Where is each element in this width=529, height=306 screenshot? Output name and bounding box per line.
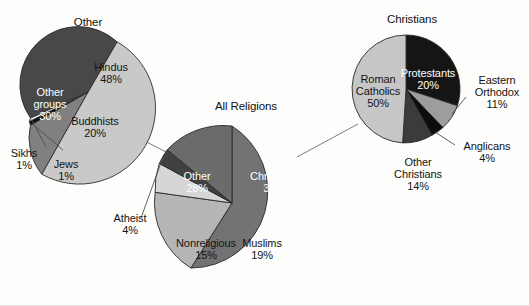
label-other-christians-value: 14%: [407, 180, 429, 193]
label-other-name: Other: [183, 170, 210, 183]
label-roman-catholics-value: 50%: [367, 97, 389, 110]
label-sikhs-value: 1%: [16, 159, 32, 172]
label-jews-name: Jews: [54, 158, 79, 171]
label-other-groups-value: 30%: [39, 110, 61, 123]
label-other-value: 28%: [186, 182, 208, 195]
label-anglicans-value: 4%: [479, 152, 495, 165]
label-roman-catholics-line2: Catholics: [356, 85, 400, 98]
label-nonreligious-name: Nonreligious: [176, 237, 236, 250]
label-christians-value: 34%: [263, 182, 285, 195]
label-muslims-value: 19%: [251, 249, 273, 262]
label-hindus-name: Hindus: [94, 61, 128, 74]
label-nonreligious-value: 15%: [195, 249, 217, 262]
label-roman-catholics-line1: Roman: [361, 73, 396, 86]
label-other-christians-line1: Other: [404, 156, 431, 169]
pie-title-christians: Christians: [387, 13, 437, 26]
label-protestants-name: Protestants: [401, 67, 456, 80]
label-other-groups-line2: groups: [33, 98, 66, 111]
label-hindus-value: 48%: [100, 73, 122, 86]
label-atheist-name: Atheist: [114, 212, 147, 225]
label-anglicans-name: Anglicans: [464, 140, 511, 153]
label-buddhists-name: Buddhists: [71, 115, 118, 128]
pie-chart-figure: Other All Religions Christians Hindus 48…: [0, 0, 529, 306]
label-sikhs-name: Sikhs: [11, 147, 37, 160]
label-eastern-orthodox-value: 11%: [487, 98, 508, 111]
label-christians-name: Christians: [250, 170, 298, 183]
label-jews-value: 1%: [58, 170, 74, 183]
label-atheist-value: 4%: [122, 224, 138, 237]
label-other-groups-line1: Other: [36, 86, 63, 99]
pie-title-all-religions: All Religions: [215, 100, 277, 113]
label-eastern-orthodox-line2: Orthodox: [475, 86, 519, 99]
label-muslims-name: Muslims: [242, 237, 282, 250]
label-eastern-orthodox-line1: Eastern: [478, 74, 515, 87]
leader-anglicans: [435, 132, 455, 145]
connector-center-to-right: [297, 124, 358, 157]
label-other-christians-line2: Christians: [394, 168, 442, 181]
pie-title-other: Other: [74, 16, 102, 29]
label-protestants-value: 20%: [417, 79, 439, 92]
label-buddhists-value: 20%: [84, 127, 106, 140]
